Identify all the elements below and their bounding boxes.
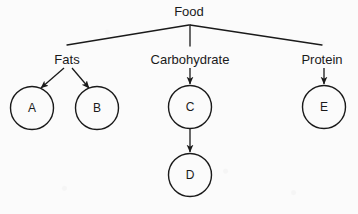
circle-node-b[interactable]: B xyxy=(76,87,119,130)
circle-label-a: A xyxy=(28,101,36,115)
circle-label-e: E xyxy=(320,100,328,114)
node-label-fats: Fats xyxy=(54,52,80,67)
node-label-food: Food xyxy=(174,4,204,19)
circle-node-c[interactable]: C xyxy=(169,86,212,129)
node-label-carbohydrate: Carbohydrate xyxy=(151,52,230,67)
circle-node-e[interactable]: E xyxy=(303,86,346,129)
food-nutrient-tree-diagram: Food Fats Carbohydrate Protein A B C xyxy=(0,0,358,214)
edge-food-to-protein xyxy=(190,25,322,45)
arrow-fats-to-b xyxy=(72,68,89,88)
arrow-fats-to-a xyxy=(41,68,64,88)
diagram-canvas: Food Fats Carbohydrate Protein A B C xyxy=(0,0,358,214)
circle-label-b: B xyxy=(93,101,101,115)
node-label-protein: Protein xyxy=(301,52,342,67)
circle-label-d: D xyxy=(186,168,195,182)
circle-node-a[interactable]: A xyxy=(11,87,54,130)
circle-node-d[interactable]: D xyxy=(169,154,212,197)
edge-food-to-fats xyxy=(67,25,189,45)
circle-label-c: C xyxy=(186,100,195,114)
